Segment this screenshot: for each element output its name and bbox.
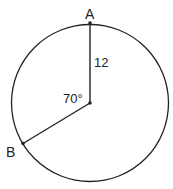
radius-to-b	[23, 103, 90, 144]
label-b: B	[6, 144, 15, 160]
point-b	[21, 142, 25, 146]
angle-label: 70°	[63, 91, 83, 106]
label-a: A	[85, 6, 95, 22]
radius-length-label: 12	[94, 55, 108, 70]
center-point	[88, 101, 92, 105]
circle-diagram: A B 12 70°	[0, 0, 173, 189]
